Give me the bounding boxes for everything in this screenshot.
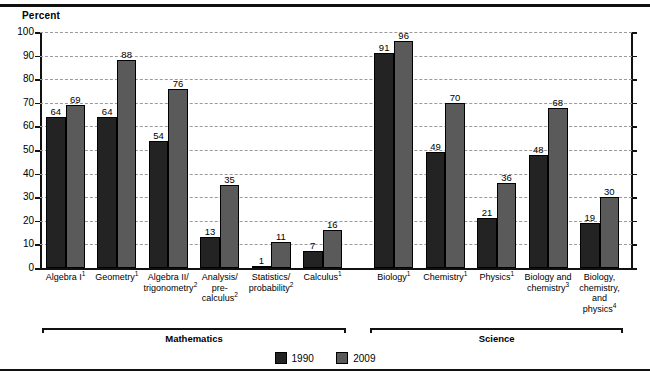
group-label: Science — [370, 333, 623, 344]
y-tick-right — [632, 150, 637, 152]
y-tick-right — [632, 126, 637, 128]
group-bracket-science: Science — [370, 328, 623, 342]
bar-2009-1[interactable]: 88 — [117, 60, 137, 268]
bar-2009-0[interactable]: 69 — [66, 105, 86, 268]
y-tick-label: 40 — [6, 169, 34, 179]
bar-value-label: 70 — [450, 92, 461, 103]
bar-value-label: 88 — [121, 49, 132, 60]
legend-item-1990[interactable]: 1990 — [275, 352, 314, 364]
y-tick-right — [632, 79, 637, 81]
legend-swatch-2009 — [336, 352, 348, 364]
bar-2009-2[interactable]: 76 — [168, 89, 188, 268]
x-category-label-9: Biology andchemistry3 — [523, 272, 572, 293]
bar-2009-10[interactable]: 30 — [600, 197, 620, 268]
x-category-label-6: Biology1 — [369, 272, 418, 283]
x-category-label-7: Chemistry1 — [421, 272, 470, 283]
x-axis-category-labels: Algebra I1Geometry1Algebra II/trigonomet… — [40, 272, 632, 328]
bar-value-label: 21 — [482, 207, 493, 218]
plot-area: 0102030405060708090100 64645413179149214… — [40, 32, 632, 268]
top-divider — [0, 4, 650, 7]
x-category-label-5: Calculus1 — [298, 272, 347, 283]
bar-1990-3[interactable]: 13 — [200, 237, 220, 268]
bar-1990-8[interactable]: 21 — [477, 218, 497, 268]
x-category-label-3: Analysis/pre-calculus2 — [195, 272, 244, 304]
chart-legend: 1990 2009 — [0, 348, 650, 366]
y-tick-right — [632, 103, 637, 105]
y-axis-title: Percent — [22, 10, 60, 21]
bar-1990-2[interactable]: 54 — [149, 141, 169, 268]
x-category-label-0: Algebra I1 — [41, 272, 90, 283]
legend-item-2009[interactable]: 2009 — [336, 352, 375, 364]
bar-value-label: 48 — [533, 144, 544, 155]
bar-value-label: 19 — [584, 212, 595, 223]
bar-series-container: 6464541317914921481969887635111696703668… — [40, 32, 632, 268]
bar-value-label: 36 — [501, 172, 512, 183]
bar-2009-8[interactable]: 36 — [497, 183, 517, 268]
bottom-divider — [0, 369, 650, 371]
y-tick-label: 60 — [6, 121, 34, 131]
y-tick-right — [632, 197, 637, 199]
bar-value-label: 64 — [102, 106, 113, 117]
group-label: Mathematics — [42, 333, 346, 344]
x-category-label-8: Physics1 — [472, 272, 521, 283]
bar-value-label: 30 — [604, 186, 615, 197]
y-tick-label: 20 — [6, 216, 34, 226]
x-category-label-2: Algebra II/trigonometry2 — [144, 272, 193, 293]
y-tick-label: 80 — [6, 74, 34, 84]
bar-2009-4[interactable]: 11 — [271, 242, 291, 268]
y-tick-label: 70 — [6, 98, 34, 108]
group-bracket-mathematics: Mathematics — [42, 328, 346, 342]
y-tick-right — [632, 56, 637, 58]
y-tick-label: 90 — [6, 51, 34, 61]
bracket-line — [370, 328, 623, 330]
bar-value-label: 13 — [205, 226, 216, 237]
bar-value-label: 76 — [173, 78, 184, 89]
bar-value-label: 68 — [553, 97, 564, 108]
y-tick-right — [632, 221, 637, 223]
bar-1990-1[interactable]: 64 — [97, 117, 117, 268]
bar-1990-5[interactable]: 7 — [303, 251, 323, 268]
bar-2009-6[interactable]: 96 — [394, 41, 414, 268]
y-tick-label: 10 — [6, 239, 34, 249]
y-tick-label: 0 — [6, 263, 34, 273]
bar-value-label: 16 — [327, 219, 338, 230]
bar-value-label: 96 — [398, 30, 409, 41]
bar-2009-7[interactable]: 70 — [445, 103, 465, 268]
bar-value-label: 7 — [310, 240, 315, 251]
y-tick-right — [632, 244, 637, 246]
chart-root: Percent 0102030405060708090100 646454131… — [0, 0, 650, 372]
x-category-label-10: Biology,chemistry,andphysics4 — [575, 272, 624, 314]
bar-2009-9[interactable]: 68 — [548, 108, 568, 268]
y-tick-right — [632, 268, 637, 270]
bar-value-label: 49 — [430, 141, 441, 152]
bar-value-label: 11 — [276, 231, 286, 242]
y-tick-label: 100 — [6, 27, 34, 37]
bar-value-label: 64 — [50, 106, 61, 117]
bar-value-label: 54 — [153, 130, 164, 141]
y-tick-label: 50 — [6, 145, 34, 155]
bar-1990-9[interactable]: 48 — [529, 155, 549, 268]
y-tick-right — [632, 174, 637, 176]
bar-1990-4[interactable]: 1 — [252, 266, 272, 268]
bar-value-label: 91 — [379, 42, 390, 53]
y-tick-right — [632, 32, 637, 34]
legend-label-2009: 2009 — [353, 353, 375, 364]
bar-2009-3[interactable]: 35 — [220, 185, 240, 268]
x-category-label-4: Statistics/probability2 — [246, 272, 295, 293]
x-axis-line — [40, 268, 633, 270]
y-tick-label: 30 — [6, 192, 34, 202]
bar-value-label: 1 — [259, 255, 264, 266]
bar-value-label: 35 — [224, 174, 235, 185]
legend-swatch-1990 — [275, 352, 287, 364]
x-category-label-1: Geometry1 — [92, 272, 141, 283]
bar-1990-7[interactable]: 49 — [426, 152, 446, 268]
bar-1990-0[interactable]: 64 — [46, 117, 66, 268]
bracket-line — [42, 328, 346, 330]
bar-1990-6[interactable]: 91 — [374, 53, 394, 268]
bar-value-label: 69 — [70, 94, 81, 105]
legend-label-1990: 1990 — [292, 353, 314, 364]
bar-2009-5[interactable]: 16 — [323, 230, 343, 268]
bar-1990-10[interactable]: 19 — [580, 223, 600, 268]
y-tick-left — [35, 268, 40, 270]
